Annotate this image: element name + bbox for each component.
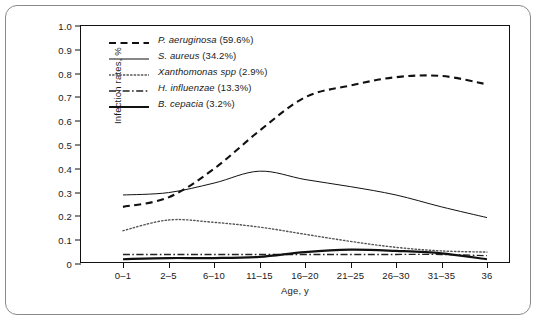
legend-label: B. cepacia (3.2%)	[158, 98, 235, 109]
legend-line-icon	[109, 82, 149, 92]
legend-item: P. aeruginosa (59.6%)	[109, 32, 267, 46]
legend-item: Xanthomonas spp (2.9%)	[109, 64, 267, 78]
x-tick-label: 2–5	[160, 270, 176, 281]
x-tick-label: 26–30	[382, 270, 409, 281]
legend-label: H. influenzae (13.3%)	[158, 82, 251, 93]
legend-line-icon	[109, 66, 149, 76]
series-line	[123, 171, 487, 217]
legend-label: P. aeruginosa (59.6%)	[158, 34, 253, 45]
x-tick-label: 36	[482, 270, 493, 281]
legend-label: Xanthomonas spp (2.9%)	[158, 66, 267, 77]
plot-area: Infection rates, % Age, y 00.10.20.30.40…	[80, 25, 510, 263]
x-tick-label: 31–35	[428, 270, 455, 281]
x-tick-label: 21–25	[337, 270, 364, 281]
legend-item: S. aureus (34.2%)	[109, 48, 267, 62]
series-line	[123, 254, 487, 255]
figure-container: Infection rates, % Age, y 00.10.20.30.40…	[0, 0, 538, 321]
legend-line-icon	[109, 50, 149, 60]
legend-item: H. influenzae (13.3%)	[109, 80, 267, 94]
legend-line-icon	[109, 34, 149, 44]
series-line	[123, 220, 487, 253]
x-tick-label: 0–1	[115, 270, 131, 281]
x-axis-label: Age, y	[81, 285, 509, 296]
chart-legend: P. aeruginosa (59.6%)S. aureus (34.2%)Xa…	[109, 32, 267, 110]
legend-line-icon	[109, 98, 149, 108]
legend-item: B. cepacia (3.2%)	[109, 96, 267, 110]
legend-label: S. aureus (34.2%)	[158, 50, 236, 61]
x-tick-label: 6–10	[203, 270, 225, 281]
x-tick-label: 16–20	[291, 270, 318, 281]
x-tick-label: 11–15	[246, 270, 273, 281]
